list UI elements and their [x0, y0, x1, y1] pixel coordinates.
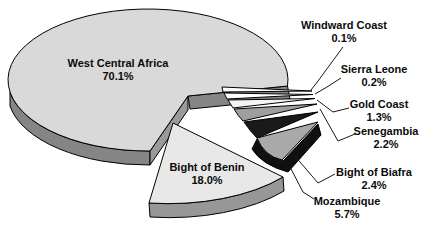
callout-label-sierra-leone: Sierra Leone 0.2% — [341, 63, 408, 89]
callout-label-mozambique: Mozambique 5.7% — [314, 195, 381, 221]
callout-label-name: Senegambia — [354, 125, 419, 138]
slice-label-pct: 70.1% — [68, 70, 169, 83]
callout-label-pct: 0.1% — [301, 32, 387, 45]
leader-line-windward-coast — [311, 47, 343, 90]
slice-label-name: West Central Africa — [68, 57, 169, 70]
callout-label-pct: 5.7% — [314, 208, 381, 221]
callout-label-bight-of-biafra: Bight of Biafra 2.4% — [336, 166, 412, 192]
slice-label-west-central-africa: West Central Africa 70.1% — [68, 57, 169, 83]
callout-label-name: Mozambique — [314, 195, 381, 208]
callout-label-pct: 1.3% — [350, 111, 409, 124]
leader-line-gold-coast — [317, 100, 349, 112]
slice-label-name: Bight of Benin — [169, 161, 244, 174]
callout-label-senegambia: Senegambia 2.2% — [354, 125, 419, 151]
callout-label-windward-coast: Windward Coast 0.1% — [301, 19, 387, 45]
slice-label-bight-of-benin: Bight of Benin 18.0% — [169, 161, 244, 187]
callout-label-pct: 2.4% — [336, 179, 412, 192]
callout-label-name: Gold Coast — [350, 98, 409, 111]
callout-label-name: Windward Coast — [301, 19, 387, 32]
callout-label-pct: 2.2% — [354, 138, 419, 151]
callout-label-name: Sierra Leone — [341, 63, 408, 76]
slice-label-pct: 18.0% — [169, 174, 244, 187]
callout-label-gold-coast: Gold Coast 1.3% — [350, 98, 409, 124]
leader-line-mozambique — [290, 167, 314, 199]
callout-label-pct: 0.2% — [341, 76, 408, 89]
pie-chart: West Central Africa 70.1% Bight of Benin… — [0, 0, 430, 234]
leader-line-bight-of-biafra — [294, 155, 335, 183]
callout-label-name: Bight of Biafra — [336, 166, 412, 179]
